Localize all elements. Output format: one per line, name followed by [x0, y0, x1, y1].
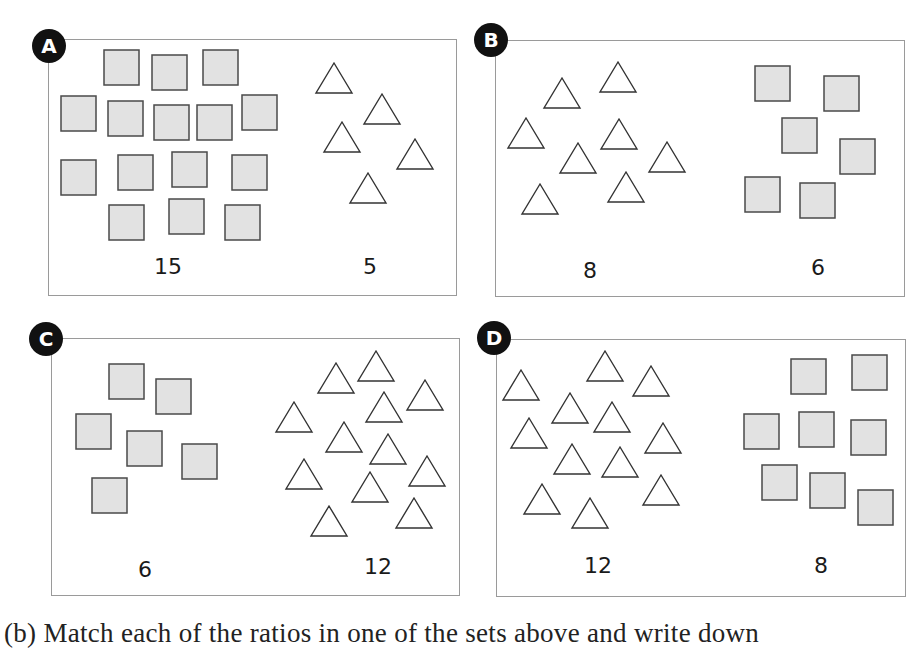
panel-c-triangles-count: 12 [364, 554, 392, 579]
badge-b: B [474, 23, 508, 57]
badge-c: C [29, 322, 63, 356]
badge-d: D [477, 321, 511, 355]
panel-a [48, 39, 457, 296]
panel-d-squares-count: 8 [814, 553, 828, 578]
panel-c [51, 338, 460, 596]
panel-b [495, 40, 905, 297]
panel-a-triangles-count: 5 [363, 254, 377, 279]
question-text: (b) Match each of the ratios in one of t… [4, 618, 759, 649]
badge-a: A [32, 29, 66, 63]
panel-d [496, 339, 906, 597]
panel-c-squares-count: 6 [138, 557, 152, 582]
panel-b-triangles-count: 8 [583, 258, 597, 283]
panel-d-triangles-count: 12 [584, 553, 612, 578]
panel-a-squares-count: 15 [154, 254, 182, 279]
panel-b-squares-count: 6 [811, 255, 825, 280]
